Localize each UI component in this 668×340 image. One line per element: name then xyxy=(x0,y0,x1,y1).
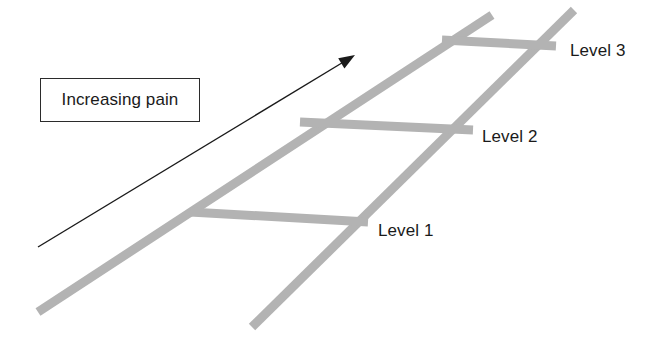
increasing-pain-label: Increasing pain xyxy=(62,90,179,110)
rung-level-1 xyxy=(190,212,368,222)
level-1-label: Level 1 xyxy=(378,221,434,241)
level-2-label: Level 2 xyxy=(482,127,538,147)
ladder-diagram-svg xyxy=(0,0,668,340)
increasing-pain-callout: Increasing pain xyxy=(40,78,200,122)
rung-level-3 xyxy=(442,40,556,46)
level-3-label: Level 3 xyxy=(570,41,626,61)
right-rail xyxy=(252,10,574,327)
arrow-head xyxy=(338,55,355,68)
figure-canvas: Increasing pain Level 1 Level 2 Level 3 xyxy=(0,0,668,340)
